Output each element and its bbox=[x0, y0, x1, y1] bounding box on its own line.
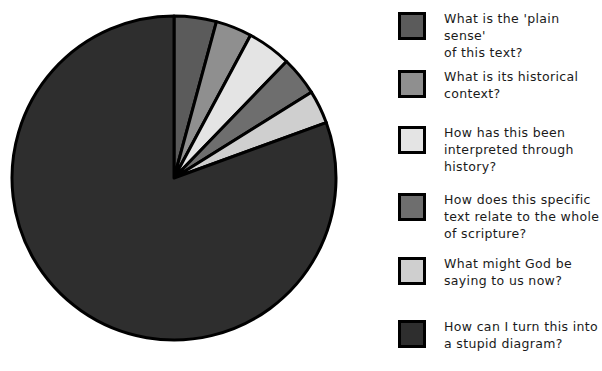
legend-item-stupid-diagram[interactable]: How can I turn this into a stupid diagra… bbox=[398, 318, 598, 352]
legend-swatch-stupid-diagram bbox=[398, 320, 426, 348]
legend-label-interpreted-through-history: How has this been interpreted through hi… bbox=[444, 124, 574, 175]
legend-label-stupid-diagram: How can I turn this into a stupid diagra… bbox=[444, 318, 598, 352]
legend-swatch-interpreted-through-history bbox=[398, 126, 426, 154]
legend-item-historical-context[interactable]: What is its historical context? bbox=[398, 68, 578, 102]
legend-item-relate-to-scripture[interactable]: How does this specific text relate to th… bbox=[398, 191, 599, 242]
legend-label-plain-sense: What is the 'plain sense' of this text? bbox=[444, 10, 602, 61]
legend-swatch-god-saying-now bbox=[398, 257, 426, 285]
legend-item-plain-sense[interactable]: What is the 'plain sense' of this text? bbox=[398, 10, 602, 61]
legend-label-relate-to-scripture: How does this specific text relate to th… bbox=[444, 191, 599, 242]
legend-item-interpreted-through-history[interactable]: How has this been interpreted through hi… bbox=[398, 124, 574, 175]
legend-swatch-historical-context bbox=[398, 70, 426, 98]
pie-chart-svg bbox=[0, 0, 360, 371]
legend-label-historical-context: What is its historical context? bbox=[444, 68, 578, 102]
legend-item-god-saying-now[interactable]: What might God be saying to us now? bbox=[398, 255, 572, 289]
legend-swatch-plain-sense bbox=[398, 12, 426, 40]
pie-chart-page: What is the 'plain sense' of this text? … bbox=[0, 0, 602, 371]
chart-legend: What is the 'plain sense' of this text? … bbox=[360, 0, 602, 371]
legend-swatch-relate-to-scripture bbox=[398, 193, 426, 221]
legend-label-god-saying-now: What might God be saying to us now? bbox=[444, 255, 572, 289]
pie-chart-area bbox=[0, 0, 360, 371]
